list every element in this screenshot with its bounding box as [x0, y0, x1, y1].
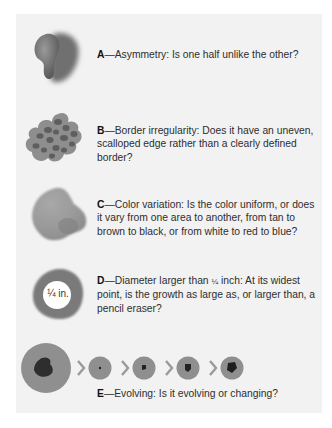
- abcde-figure-panel: A—Asymmetry: Is one half unlike the othe…: [16, 14, 322, 413]
- asymmetric-mole-icon: [28, 28, 84, 88]
- dash: —: [104, 49, 114, 60]
- item-text: B—Border irregularity: Does it have an u…: [97, 124, 319, 164]
- item-description: Border irregularity: Does it have an une…: [97, 125, 313, 163]
- dash: —: [104, 275, 114, 286]
- item-description-start: Diameter larger than: [115, 275, 212, 286]
- item-description: Color variation: Is the color uniform, o…: [97, 199, 314, 237]
- item-description: Asymmetry: Is one half unlike the other?: [115, 49, 299, 60]
- item-border-irregularity: B—Border irregularity: Does it have an u…: [16, 100, 322, 176]
- item-diameter: ¼ in. D—Diameter larger than ¼ inch: At …: [16, 258, 322, 338]
- item-description: Evolving: Is it evolving or changing?: [114, 388, 278, 399]
- item-evolving: E—Evolving: Is it evolving or changing?: [16, 340, 322, 412]
- dash: —: [104, 199, 114, 210]
- item-text: A—Asymmetry: Is one half unlike the othe…: [97, 48, 319, 61]
- diameter-label: ¼ in.: [38, 288, 78, 299]
- item-text: E—Evolving: Is it evolving or changing?: [97, 387, 319, 400]
- item-asymmetry: A—Asymmetry: Is one half unlike the othe…: [16, 24, 322, 94]
- item-text: C—Color variation: Is the color uniform,…: [97, 198, 319, 238]
- item-letter: E: [97, 388, 104, 399]
- item-text: D—Diameter larger than ¼ inch: At its wi…: [97, 274, 319, 315]
- irregular-border-mole-icon: [24, 110, 86, 168]
- dash: —: [104, 125, 114, 136]
- color-variation-mole-icon: [28, 186, 88, 244]
- item-color-variation: C—Color variation: Is the color uniform,…: [16, 180, 322, 256]
- dash: —: [104, 388, 114, 399]
